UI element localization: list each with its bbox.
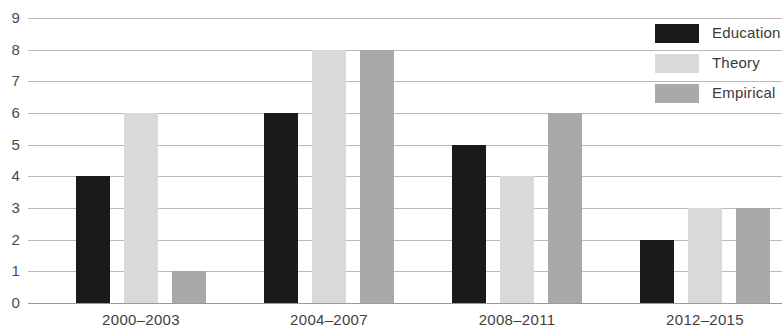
x-axis-category-label: 2000–2003	[81, 312, 201, 328]
bar-education-0	[76, 176, 110, 303]
bar-theory-0	[124, 113, 158, 303]
x-axis-category-label: 2004–2007	[269, 312, 389, 328]
bar-empirical-3	[736, 208, 770, 303]
legend-item-theory[interactable]: Theory	[640, 48, 782, 78]
bar-empirical-0	[172, 271, 206, 303]
legend-swatch-icon	[655, 84, 699, 103]
bar-education-3	[640, 240, 674, 303]
legend-swatch-icon	[655, 54, 699, 73]
bar-education-1	[264, 113, 298, 303]
legend-label: Education	[712, 25, 781, 41]
x-axis-category-label: 2012–2015	[645, 312, 765, 328]
legend-label: Empirical	[712, 85, 775, 101]
legend-item-empirical[interactable]: Empirical	[640, 78, 782, 108]
x-axis-category-label: 2008–2011	[457, 312, 577, 328]
bar-theory-3	[688, 208, 722, 303]
bar-theory-1	[312, 50, 346, 303]
legend-swatch-icon	[655, 24, 699, 43]
bar-education-2	[452, 145, 486, 303]
legend: EducationTheoryEmpirical	[640, 18, 782, 108]
legend-label: Theory	[712, 55, 760, 71]
bar-empirical-2	[548, 113, 582, 303]
bar-chart: 0123456789 2000–20032004–20072008–201120…	[0, 0, 782, 334]
bar-theory-2	[500, 176, 534, 303]
bar-empirical-1	[360, 50, 394, 303]
legend-item-education[interactable]: Education	[640, 18, 782, 48]
